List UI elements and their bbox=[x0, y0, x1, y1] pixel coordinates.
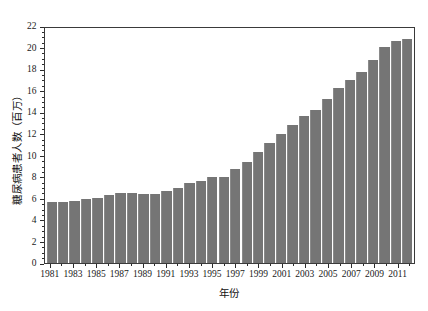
x-tick-mark bbox=[224, 264, 225, 266]
y-tick-label: 18 bbox=[27, 65, 40, 75]
bar bbox=[115, 193, 125, 263]
bar bbox=[379, 47, 389, 263]
y-tick-label: 16 bbox=[27, 87, 40, 97]
y-tick-label: 14 bbox=[27, 108, 40, 118]
bar bbox=[173, 188, 183, 263]
x-tick-label: 2007 bbox=[342, 269, 361, 280]
bar bbox=[150, 194, 160, 263]
x-tick-mark bbox=[247, 264, 248, 266]
x-tick-mark bbox=[270, 264, 271, 266]
plot-area bbox=[44, 27, 415, 264]
x-tick-mark bbox=[201, 264, 202, 266]
bar bbox=[322, 99, 332, 263]
bar bbox=[345, 80, 355, 263]
x-tick-label: 2001 bbox=[272, 269, 291, 280]
x-tick-label: 2011 bbox=[388, 269, 407, 280]
bar bbox=[299, 116, 309, 263]
bar bbox=[230, 169, 240, 263]
x-tick-label: 2003 bbox=[295, 269, 314, 280]
x-tick-mark bbox=[409, 264, 410, 266]
bar bbox=[276, 134, 286, 263]
x-tick-label: 1991 bbox=[156, 269, 175, 280]
y-tick-label: 4 bbox=[32, 216, 40, 226]
x-tick-mark bbox=[212, 264, 213, 268]
bar bbox=[127, 193, 137, 263]
x-tick-mark bbox=[189, 264, 190, 268]
x-tick-mark bbox=[73, 264, 74, 268]
x-tick-mark bbox=[108, 264, 109, 266]
x-tick-label: 2009 bbox=[365, 269, 384, 280]
x-tick-mark bbox=[258, 264, 259, 268]
y-tick-label: 20 bbox=[27, 44, 40, 54]
bar bbox=[391, 41, 401, 263]
y-tick-label: 8 bbox=[32, 173, 40, 183]
x-tick-label: 1985 bbox=[87, 269, 106, 280]
chart-figure: 0246810121416182022 19811983198519871989… bbox=[0, 0, 428, 311]
bar bbox=[196, 181, 206, 263]
bar bbox=[253, 152, 263, 263]
x-tick-mark bbox=[363, 264, 364, 266]
x-tick-mark bbox=[305, 264, 306, 268]
x-tick-mark bbox=[398, 264, 399, 268]
x-tick-mark bbox=[386, 264, 387, 266]
bar bbox=[81, 199, 91, 263]
x-tick-label: 1993 bbox=[179, 269, 198, 280]
bar bbox=[368, 60, 378, 263]
y-tick-label: 12 bbox=[27, 130, 40, 140]
x-tick-mark bbox=[293, 264, 294, 266]
bar bbox=[92, 198, 102, 263]
x-tick-mark bbox=[131, 264, 132, 266]
bar bbox=[138, 194, 148, 263]
bar bbox=[287, 125, 297, 263]
x-tick-label: 1983 bbox=[63, 269, 82, 280]
bar bbox=[104, 195, 114, 263]
x-tick-mark bbox=[166, 264, 167, 268]
x-tick-mark bbox=[96, 264, 97, 268]
x-tick-mark bbox=[282, 264, 283, 268]
x-tick-mark bbox=[328, 264, 329, 268]
x-tick-label: 1987 bbox=[110, 269, 129, 280]
bar bbox=[58, 202, 68, 263]
x-tick-label: 1981 bbox=[40, 269, 59, 280]
y-tick-label: 0 bbox=[32, 259, 40, 269]
bar bbox=[242, 162, 252, 263]
bar bbox=[402, 39, 412, 263]
x-tick-mark bbox=[85, 264, 86, 266]
y-tick-label: 22 bbox=[27, 22, 40, 32]
x-axis-title: 年份 bbox=[44, 285, 415, 300]
y-tick-label: 10 bbox=[27, 152, 40, 162]
bar bbox=[310, 110, 320, 264]
bar bbox=[207, 177, 217, 263]
x-tick-mark bbox=[50, 264, 51, 268]
x-tick-mark bbox=[316, 264, 317, 266]
bar bbox=[184, 183, 194, 263]
bar-series bbox=[45, 28, 414, 263]
y-tick-label: 2 bbox=[32, 238, 40, 248]
x-tick-label: 1989 bbox=[133, 269, 152, 280]
bar bbox=[219, 177, 229, 263]
x-tick-mark bbox=[143, 264, 144, 268]
x-tick-mark bbox=[340, 264, 341, 266]
x-tick-label: 1999 bbox=[249, 269, 268, 280]
x-tick-mark bbox=[61, 264, 62, 266]
y-axis-title: 糖尿病患者人数（百万） bbox=[9, 48, 24, 248]
x-tick-mark bbox=[177, 264, 178, 266]
x-tick-mark bbox=[154, 264, 155, 266]
bar bbox=[264, 143, 274, 263]
x-tick-label: 1997 bbox=[226, 269, 245, 280]
bar bbox=[47, 202, 57, 263]
x-tick-mark bbox=[235, 264, 236, 268]
x-tick-mark bbox=[119, 264, 120, 268]
bar bbox=[333, 88, 343, 263]
x-tick-label: 1995 bbox=[203, 269, 222, 280]
x-tick-mark bbox=[351, 264, 352, 268]
y-tick-label: 6 bbox=[32, 195, 40, 205]
bar bbox=[161, 191, 171, 263]
x-tick-label: 2005 bbox=[319, 269, 338, 280]
x-tick-mark bbox=[374, 264, 375, 268]
bar bbox=[69, 201, 79, 263]
bar bbox=[356, 72, 366, 263]
